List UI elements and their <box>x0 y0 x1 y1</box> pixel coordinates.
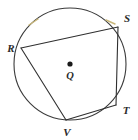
geometry-figure: Q R S T V <box>0 0 138 140</box>
figure-canvas: Q R S T V <box>0 0 138 140</box>
vertex-label-v: V <box>63 126 72 138</box>
side-vr <box>21 48 66 120</box>
center-point-dot <box>67 61 72 66</box>
center-label-q: Q <box>66 70 74 81</box>
vertex-label-s: S <box>124 12 130 24</box>
side-rs <box>21 27 118 48</box>
side-tv <box>66 105 116 120</box>
vertex-label-t: T <box>123 104 131 116</box>
vertex-label-r: R <box>6 42 14 54</box>
arc-tick-upper-left-icon <box>29 19 38 25</box>
